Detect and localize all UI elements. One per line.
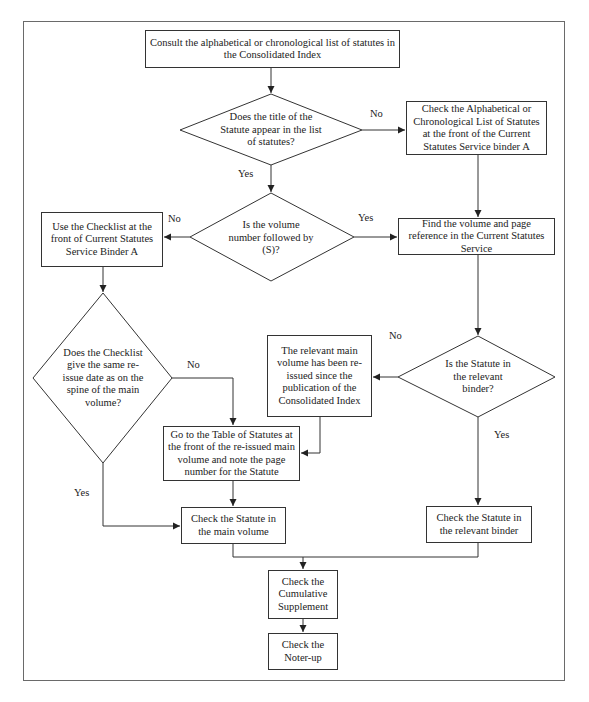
step-consult-index: Consult the alphabetical or chronologica… [145, 30, 400, 68]
decision-volume-followed-by-s: Is the volume number followed by (S)? [228, 216, 314, 260]
step-check-cumulative-supplement: Check the Cumulative Supplement [268, 570, 338, 619]
step-check-noter-up: Check the Noter-up [268, 633, 338, 670]
decision-statute-in-binder: Is the Statute in the relevant binder? [438, 357, 518, 397]
step-table-of-statutes: Go to the Table of Statutes at the front… [163, 426, 300, 481]
label-binder-yes: Yes [494, 429, 509, 441]
label-title-yes: Yes [238, 168, 253, 180]
step-use-checklist: Use the Checklist at the front of Curren… [41, 212, 163, 267]
step-check-alphabetical-list: Check the Alphabetical or Chronological … [406, 101, 547, 155]
label-checklist-no: No [187, 359, 200, 371]
step-check-relevant-binder: Check the Statute in the relevant binder [426, 506, 532, 543]
step-find-volume: Find the volume and page reference in th… [398, 218, 555, 255]
decision-checklist-same-date: Does the Checklist give the same re-issu… [58, 338, 148, 418]
label-volume-yes: Yes [358, 212, 373, 224]
label-checklist-yes: Yes [74, 487, 89, 499]
decision-title-appears: Does the title of the Statute appear in … [220, 108, 322, 152]
label-binder-no: No [389, 330, 402, 342]
step-check-main-volume: Check the Statute in the main volume [181, 507, 286, 544]
step-volume-reissued: The relevant main volume has been re-iss… [267, 335, 372, 417]
label-title-no: No [370, 108, 383, 120]
label-volume-no: No [168, 213, 181, 225]
